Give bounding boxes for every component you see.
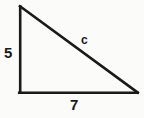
- right-triangle-figure: 5 7 c: [0, 0, 144, 118]
- hypotenuse-label: c: [81, 34, 88, 46]
- vertical-leg-label: 5: [4, 45, 12, 60]
- horizontal-leg-label: 7: [70, 97, 78, 112]
- hypotenuse-line: [20, 6, 138, 92]
